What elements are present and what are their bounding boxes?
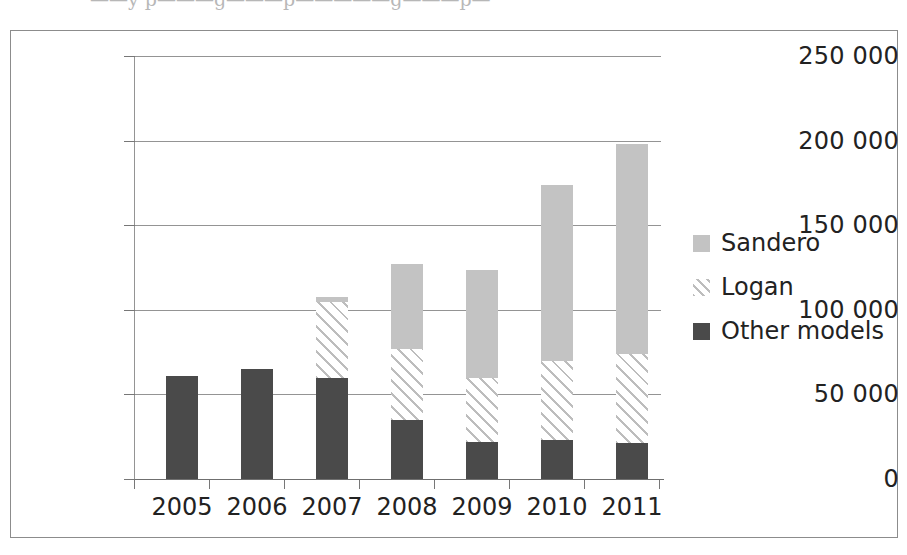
legend-swatch-sandero-icon xyxy=(693,235,710,252)
bar-segment-2011-other-models xyxy=(616,443,648,479)
y-tick-100000 xyxy=(124,310,135,311)
legend-item-other-models: Other models xyxy=(693,309,893,353)
bar-segment-2010-logan xyxy=(541,361,573,440)
x-tick-4 xyxy=(434,480,435,489)
y-axis-line xyxy=(134,56,135,480)
gridline-200000 xyxy=(134,141,661,142)
x-tick-1 xyxy=(209,480,210,489)
gridline-250000 xyxy=(134,56,661,57)
x-axis-label-2009: 2009 xyxy=(442,493,522,521)
y-axis-label-0: 0 xyxy=(787,465,899,493)
scan-caption-strip: ——y p———g———p—————g———p— xyxy=(0,0,907,22)
x-axis-label-2007: 2007 xyxy=(292,493,372,521)
bar-segment-2007-sandero xyxy=(316,297,348,302)
bar-segment-2009-sandero xyxy=(466,270,498,378)
legend-swatch-logan-icon xyxy=(693,279,710,296)
chart-frame: 250 000 200 000 150 000 100 000 50 000 0 xyxy=(10,30,898,538)
bar-segment-2006-other-models xyxy=(241,369,273,479)
gridline-150000 xyxy=(134,225,661,226)
plot-area: 250 000 200 000 150 000 100 000 50 000 0 xyxy=(11,31,899,539)
legend-label-sandero: Sandero xyxy=(721,229,820,257)
y-tick-250000 xyxy=(124,56,135,57)
y-tick-50000 xyxy=(124,394,135,395)
bar-segment-2005-other-models xyxy=(166,376,198,479)
y-axis-label-50000: 50 000 xyxy=(787,380,899,408)
bar-segment-2007-logan xyxy=(316,302,348,378)
chart-legend: Sandero Logan Other models xyxy=(693,221,893,353)
y-axis-label-250000: 250 000 xyxy=(787,42,899,70)
x-tick-0 xyxy=(134,480,135,489)
x-tick-5 xyxy=(509,480,510,489)
bar-segment-2010-sandero xyxy=(541,185,573,361)
x-axis-label-2008: 2008 xyxy=(367,493,447,521)
x-tick-6 xyxy=(584,480,585,489)
bar-segment-2011-sandero xyxy=(616,144,648,354)
caption-text: ——y p———g———p—————g———p— xyxy=(90,0,491,10)
legend-item-sandero: Sandero xyxy=(693,221,893,265)
bar-segment-2008-logan xyxy=(391,349,423,420)
y-tick-150000 xyxy=(124,225,135,226)
x-axis-label-2011: 2011 xyxy=(592,493,672,521)
bar-segment-2009-other-models xyxy=(466,442,498,479)
legend-label-logan: Logan xyxy=(721,273,794,301)
bar-segment-2008-sandero xyxy=(391,264,423,349)
bar-segment-2007-other-models xyxy=(316,378,348,479)
bar-segment-2010-other-models xyxy=(541,440,573,479)
x-axis-label-2006: 2006 xyxy=(217,493,297,521)
y-tick-200000 xyxy=(124,141,135,142)
legend-item-logan: Logan xyxy=(693,265,893,309)
x-tick-2 xyxy=(284,480,285,489)
x-axis-line xyxy=(124,479,664,480)
legend-label-other-models: Other models xyxy=(721,317,884,345)
bar-segment-2009-logan xyxy=(466,378,498,442)
y-axis-label-200000: 200 000 xyxy=(787,127,899,155)
bar-segment-2008-other-models xyxy=(391,420,423,479)
x-axis-label-2010: 2010 xyxy=(517,493,597,521)
x-tick-7 xyxy=(659,480,660,489)
bar-segment-2011-logan xyxy=(616,354,648,443)
x-tick-3 xyxy=(359,480,360,489)
x-axis-label-2005: 2005 xyxy=(142,493,222,521)
legend-swatch-other-models-icon xyxy=(693,323,710,340)
